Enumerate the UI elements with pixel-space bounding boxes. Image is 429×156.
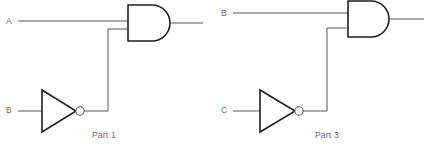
circuit-part-3 <box>233 1 424 132</box>
circuit-part-1 <box>18 5 203 132</box>
wire-inverter-to-and-gate <box>303 28 348 111</box>
wire-inverter-to-and-gate <box>84 29 128 111</box>
inverter-triangle <box>42 90 76 132</box>
inverter-triangle <box>260 90 295 132</box>
and-gate-body <box>128 5 170 41</box>
input-label-c: C <box>221 106 227 115</box>
caption-part-1: Part 1 <box>92 131 116 140</box>
inverter-bubble <box>295 107 303 115</box>
input-label-a: A <box>6 17 12 26</box>
logic-circuit-diagram: A B Part 1 B C Part 3 <box>0 0 429 156</box>
inverter-bubble <box>76 107 84 115</box>
caption-part-3: Part 3 <box>315 131 339 140</box>
input-label-b: B <box>6 106 12 115</box>
circuit-schematic-canvas <box>0 0 429 156</box>
input-label-b-part3: B <box>221 9 227 18</box>
and-gate-body <box>348 1 389 37</box>
